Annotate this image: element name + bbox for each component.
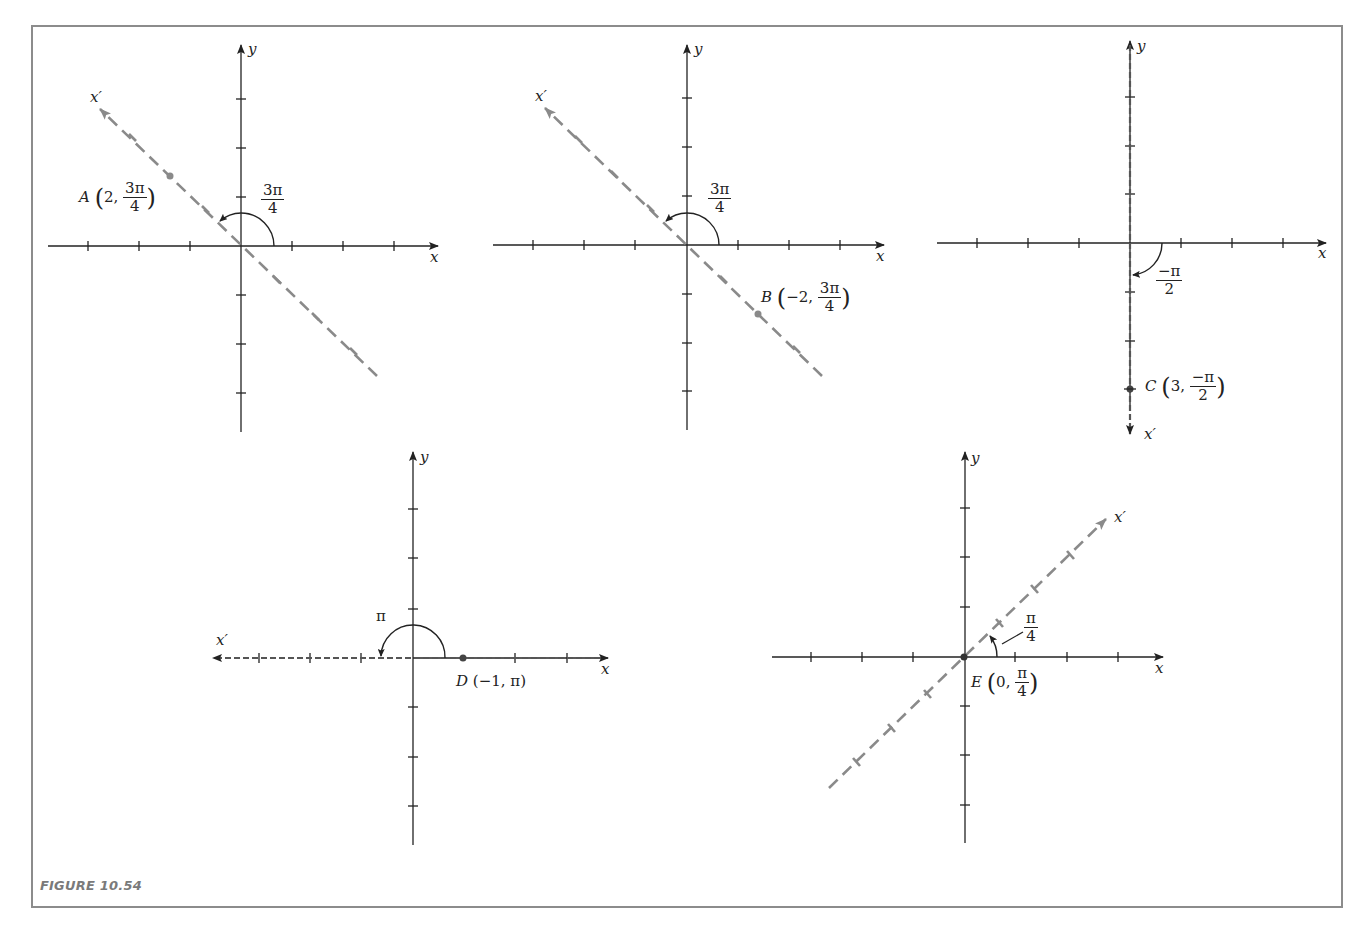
panel-c-y-label: y [1137,39,1145,54]
panel-e-y-label: y [971,451,979,466]
panel-b-y-label: y [694,42,702,57]
y-axis [960,452,970,843]
panel-a-y-label: y [248,42,256,57]
panel-a-x-label: x [430,250,438,265]
angle-arc [990,636,997,657]
panel-d-angle-label: π [376,609,386,624]
panel-b-point-label: B (−2, 3π4) [761,281,851,314]
panel-d-x-label: x [601,662,609,677]
panel-e-angle-label: π4 [1024,611,1038,644]
panel-a-angle-label: 3π4 [261,183,284,216]
rotated-axis-dashed [829,519,1106,788]
point-d-marker [460,655,467,662]
panel-a [48,45,438,432]
panel-c-point-label: C (3, −π2) [1145,370,1226,403]
y-axis [408,452,418,845]
polar-coordinates-figure [0,0,1369,939]
x-axis [48,241,438,251]
panel-e-x-label: x [1155,661,1163,676]
panel-d-y-label: y [420,450,428,465]
angle-leader-line [1002,632,1023,644]
panel-c-angle-label: −π2 [1156,264,1182,297]
panel-d-rotated-axis-label: x′ [216,633,228,648]
panel-e [772,452,1163,843]
panel-b-rotated-axis-label: x′ [535,89,547,104]
panel-b [493,45,884,430]
rotated-axis-dashed [100,109,377,376]
panel-b-angle-label: 3π4 [708,182,731,215]
panel-c-rotated-axis-label: x′ [1144,427,1156,442]
angle-arc [666,213,719,245]
panel-a-point-label: A (2, 3π4) [79,181,156,214]
y-axis [236,45,246,432]
panel-d-point-label: D (−1, π) [456,674,526,689]
point-a-marker [167,173,174,180]
x-axis [937,238,1326,248]
rotated-axis-dashed [545,108,822,376]
figure-caption: FIGURE 10.54 [40,878,142,893]
panel-e-point-label: E (0, π4) [971,666,1038,699]
point-e-marker [961,654,968,661]
y-axis [682,45,692,430]
panel-a-rotated-axis-label: x′ [90,90,102,105]
panel-c [937,41,1326,434]
panel-e-rotated-axis-label: x′ [1114,510,1126,525]
panel-d [213,452,608,845]
panel-b-x-label: x [876,249,884,264]
angle-arc [220,213,274,246]
panel-c-x-label: x [1318,246,1326,261]
x-axis [493,240,884,250]
